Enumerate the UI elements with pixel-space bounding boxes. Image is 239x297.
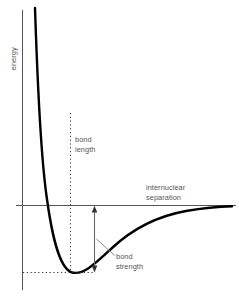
x-axis-label: internuclear separation [146, 183, 185, 202]
bond-length-label: bond length [75, 135, 95, 154]
energy-curve-figure: energy bond length internuclear separati… [0, 0, 239, 297]
potential-energy-curve [35, 8, 232, 273]
y-axis-label: energy [9, 39, 19, 79]
bond-strength-label: bond strength [116, 252, 143, 271]
